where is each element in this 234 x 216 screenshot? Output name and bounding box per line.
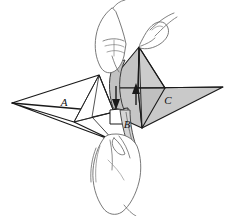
label-right-wing: C	[164, 94, 172, 106]
origami-diagram: A B C	[0, 0, 234, 216]
label-left-wing: A	[60, 96, 68, 108]
label-center-flap: B	[124, 118, 131, 130]
diagram-canvas: A B C	[0, 0, 234, 216]
